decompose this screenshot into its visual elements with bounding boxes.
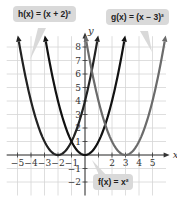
parabola-graph: xy−5−4−3−2−12345−2−112345678: [0, 0, 177, 203]
x-axis-label: x: [173, 149, 177, 160]
grid: [7, 36, 166, 195]
svg-text:4: 4: [75, 96, 81, 106]
y-axis-label: y: [87, 25, 94, 36]
svg-text:7: 7: [75, 56, 81, 66]
svg-text:8: 8: [75, 42, 81, 52]
svg-text:5: 5: [150, 158, 156, 168]
h-function-label: h(x) = (x + 2)²: [13, 6, 76, 22]
svg-text:2: 2: [109, 158, 115, 168]
g-function-label: g(x) = (x − 3)²: [106, 9, 169, 25]
svg-text:−1: −1: [68, 164, 81, 174]
svg-text:−3: −3: [38, 158, 52, 168]
svg-text:1: 1: [75, 137, 81, 147]
svg-text:−5: −5: [11, 158, 25, 168]
svg-text:5: 5: [75, 83, 81, 93]
svg-text:6: 6: [75, 69, 81, 79]
f-function-label: f(x) = x²: [93, 174, 133, 190]
svg-text:3: 3: [123, 158, 129, 168]
svg-text:−4: −4: [24, 158, 38, 168]
svg-text:4: 4: [136, 158, 142, 168]
svg-text:−2: −2: [51, 158, 64, 168]
svg-text:−2: −2: [68, 177, 81, 187]
